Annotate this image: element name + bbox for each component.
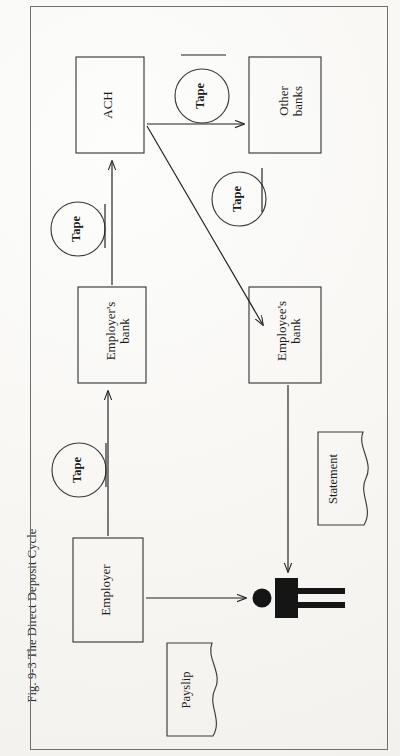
node-employee-person bbox=[253, 578, 346, 618]
person-head-icon bbox=[253, 589, 272, 608]
node-employer-box bbox=[73, 538, 143, 642]
node-payslip-doc bbox=[167, 643, 217, 736]
person-body-icon bbox=[275, 578, 345, 618]
node-tape-4-circle bbox=[52, 443, 106, 497]
node-tape-2-circle bbox=[212, 172, 266, 226]
node-employers-bank-box bbox=[78, 287, 146, 383]
diagram-canvas bbox=[0, 0, 400, 756]
node-other-banks-box bbox=[249, 57, 321, 153]
node-statement-doc bbox=[318, 432, 368, 525]
node-employees-bank-box bbox=[249, 287, 321, 383]
node-ach-box bbox=[76, 57, 144, 153]
node-tape-1-circle bbox=[175, 69, 229, 123]
node-tape-3-circle bbox=[51, 202, 105, 256]
